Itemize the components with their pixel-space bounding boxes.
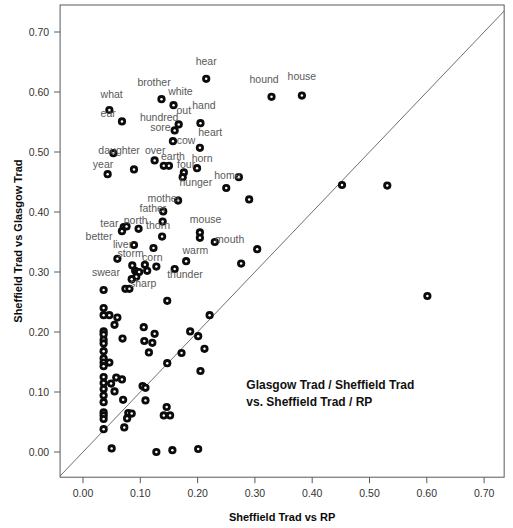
data-point bbox=[163, 297, 171, 305]
data-point bbox=[338, 181, 346, 189]
data-point-label: brother bbox=[137, 76, 171, 88]
data-point-center bbox=[225, 187, 228, 190]
data-point bbox=[119, 396, 127, 404]
data-point-center bbox=[166, 362, 169, 365]
data-point bbox=[298, 92, 306, 100]
data-point-center bbox=[123, 426, 126, 429]
data-point-center bbox=[205, 78, 208, 81]
data-point bbox=[196, 367, 204, 375]
data-point-center bbox=[197, 335, 200, 338]
data-point bbox=[110, 387, 118, 395]
data-point-center bbox=[197, 448, 200, 451]
data-point-center bbox=[102, 314, 105, 317]
data-point bbox=[100, 347, 108, 355]
data-point bbox=[100, 286, 108, 294]
data-point bbox=[100, 339, 108, 347]
data-point-label: north bbox=[124, 214, 148, 226]
annotation-line: vs. Sheffield Trad / RP bbox=[246, 395, 372, 409]
data-point-center bbox=[102, 365, 105, 368]
data-point-label: hand bbox=[192, 99, 216, 111]
data-point-center bbox=[113, 390, 116, 393]
data-point-center bbox=[110, 447, 113, 450]
data-point bbox=[196, 234, 204, 242]
data-point bbox=[118, 375, 126, 383]
data-point bbox=[194, 445, 202, 453]
data-point-center bbox=[110, 382, 113, 385]
data-point bbox=[157, 95, 165, 103]
data-point-center bbox=[185, 260, 188, 263]
data-point-label: thorn bbox=[146, 219, 170, 231]
data-point bbox=[168, 446, 176, 454]
data-point-center bbox=[102, 428, 105, 431]
data-point-center bbox=[203, 348, 206, 351]
data-point-center bbox=[155, 265, 158, 268]
data-point-label: swear bbox=[92, 266, 121, 278]
data-point-label: what bbox=[100, 88, 123, 100]
data-point-center bbox=[240, 262, 243, 265]
y-axis-tick-labels: 0.000.100.200.300.400.500.600.70 bbox=[29, 26, 50, 458]
data-point-center bbox=[172, 140, 175, 143]
data-point bbox=[118, 117, 126, 125]
data-point-center bbox=[248, 198, 251, 201]
data-point-label: year bbox=[93, 158, 114, 170]
data-point-center bbox=[121, 378, 124, 381]
data-point bbox=[104, 170, 112, 178]
data-point-center bbox=[144, 399, 147, 402]
data-point-center bbox=[386, 184, 389, 187]
data-point-center bbox=[102, 376, 105, 379]
data-point-center bbox=[116, 316, 119, 319]
data-point bbox=[100, 362, 108, 370]
data-point-center bbox=[122, 399, 125, 402]
data-point-center bbox=[121, 337, 124, 340]
y-tick-label: 0.10 bbox=[29, 386, 50, 398]
data-point-center bbox=[102, 307, 105, 310]
data-point-label: mouse bbox=[190, 213, 222, 225]
data-point bbox=[163, 359, 171, 367]
data-point bbox=[100, 304, 108, 312]
data-point-center bbox=[108, 314, 111, 317]
x-tick-label: 0.10 bbox=[130, 487, 151, 499]
data-point-center bbox=[155, 451, 158, 454]
data-point-center bbox=[180, 352, 183, 355]
y-tick-label: 0.20 bbox=[29, 326, 50, 338]
data-point bbox=[166, 411, 174, 419]
x-axis-ticks bbox=[83, 477, 484, 483]
data-point bbox=[267, 93, 275, 101]
data-point bbox=[200, 345, 208, 353]
data-point bbox=[423, 292, 431, 300]
data-point bbox=[118, 335, 126, 343]
data-point bbox=[100, 415, 108, 423]
data-point-center bbox=[168, 165, 171, 168]
data-point-label: home bbox=[214, 169, 240, 181]
data-point bbox=[222, 184, 230, 192]
data-point bbox=[107, 380, 115, 388]
data-point bbox=[123, 414, 131, 422]
data-point-center bbox=[102, 418, 105, 421]
x-axis-title: Sheffield Trad vs RP bbox=[229, 511, 335, 523]
data-point bbox=[108, 444, 116, 452]
data-point bbox=[151, 330, 159, 338]
y-tick-label: 0.50 bbox=[29, 146, 50, 158]
data-point-label: corn bbox=[142, 251, 163, 263]
data-point-center bbox=[143, 340, 146, 343]
data-point-center bbox=[173, 129, 176, 132]
data-point-center bbox=[153, 159, 156, 162]
data-point bbox=[202, 75, 210, 83]
data-point-center bbox=[256, 248, 259, 251]
data-point bbox=[145, 348, 153, 356]
data-point-label: tear bbox=[100, 217, 119, 229]
data-point-center bbox=[144, 387, 147, 390]
data-point bbox=[140, 323, 148, 331]
data-point bbox=[196, 144, 204, 152]
data-point bbox=[120, 423, 128, 431]
data-point-center bbox=[189, 330, 192, 333]
data-point-center bbox=[142, 326, 145, 329]
data-point-center bbox=[133, 168, 136, 171]
data-point-label: warm bbox=[181, 244, 208, 256]
data-point-center bbox=[199, 147, 202, 150]
y-tick-label: 0.70 bbox=[29, 26, 50, 38]
data-point bbox=[110, 321, 118, 329]
data-point-label: heart bbox=[198, 126, 222, 138]
data-point-label: daughter bbox=[98, 144, 140, 156]
data-point bbox=[206, 311, 214, 319]
